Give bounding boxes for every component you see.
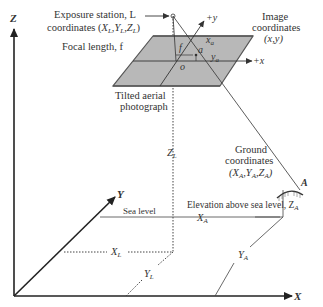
sea-level-label: Sea level [123, 206, 156, 216]
o-label: o [180, 61, 185, 72]
point-a-label: A [300, 177, 308, 188]
yl-dotted-line [158, 252, 173, 265]
terrain-surface [277, 191, 303, 198]
tilted-photo-label-2: photograph [120, 101, 169, 112]
xa-ground-label: XA [196, 212, 208, 225]
xl-ground-label: XL [110, 246, 121, 259]
z-axis-label: Z [9, 12, 17, 24]
exposure-station-label: Exposure station, L [54, 9, 136, 20]
image-coordinates-label-2: coordinates [252, 22, 300, 33]
plus-x-label: +x [253, 55, 265, 66]
x-axis-label: X [293, 290, 302, 302]
ya-ground-label: YA [238, 249, 249, 262]
image-point-a [195, 54, 198, 57]
exposure-coords-label: coordinates (XL,YL,ZL) [47, 22, 141, 35]
plus-y-label: +y [206, 12, 218, 23]
focal-length-label: Focal length, f [62, 41, 123, 52]
ground-coordinates-label-1: Ground [235, 144, 268, 155]
a-label: a [198, 44, 203, 55]
yl-dotted-line-lower [126, 280, 142, 296]
image-coordinates-label-3: (x,y) [264, 33, 283, 45]
zl-label: ZL [167, 147, 177, 160]
photogrammetry-diagram: Exposure station, L coordinates (XL,YL,Z… [0, 0, 323, 307]
tilted-photo-label-1: Tilted aerial [115, 90, 166, 101]
yl-ground-label: YL [144, 268, 154, 281]
ground-coordinates-label-3: (XA,YA,ZA) [229, 167, 273, 180]
image-coordinates-label-1: Image [262, 11, 289, 22]
ground-coordinates-label-2: coordinates [225, 155, 273, 166]
ya-line [250, 217, 283, 247]
y-axis-label: Y [117, 188, 125, 200]
ya-line-lower [215, 263, 234, 296]
elevation-label: Elevation above sea level, ZA [187, 200, 299, 212]
y-axis [14, 197, 115, 296]
